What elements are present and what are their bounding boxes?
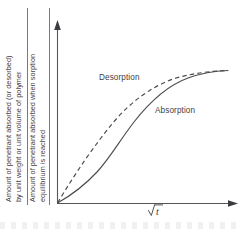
- y-axis-label-primary-line-1: Amount of penetrant absorbed (or desorbe…: [4, 55, 13, 202]
- x-axis-label-radicand: t: [156, 206, 159, 217]
- y-axis-label-secondary: Amount of penetrant absorbed when sorpti…: [28, 54, 47, 202]
- desorption-curve: [58, 71, 229, 204]
- x-axis-arrowhead: [228, 200, 238, 207]
- absorption-curve: [58, 71, 229, 204]
- sorption-kinetics-figure: Amount of penetrant absorbed (or desorbe…: [0, 0, 242, 229]
- y-axis-arrowhead: [54, 20, 61, 30]
- y-axis-label-primary-line-2: by unit weight or unit volume of polymer: [14, 71, 23, 202]
- y-axis: [54, 20, 61, 204]
- x-axis-label-sqrt-t: t: [149, 205, 164, 217]
- desorption-curve-label: Desorption: [99, 73, 140, 82]
- y-axis-label-secondary-line-2: equilibrium is reached: [38, 130, 47, 202]
- y-axis-label-secondary-line-1: Amount of penetrant absorbed when sorpti…: [28, 54, 37, 202]
- radical-sign-icon: [149, 205, 155, 216]
- x-axis: [57, 200, 238, 207]
- absorption-curve-label: Absorption: [155, 106, 195, 115]
- y-axis-label-primary: Amount of penetrant absorbed (or desorbe…: [4, 55, 23, 202]
